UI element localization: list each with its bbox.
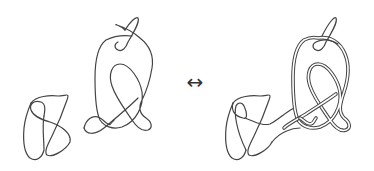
left-large-knot — [84, 18, 153, 134]
left-small-knot — [24, 95, 71, 160]
right-small-part — [226, 95, 300, 160]
right-large-part — [284, 18, 349, 131]
equivalence-arrow: ↔ — [180, 70, 210, 94]
